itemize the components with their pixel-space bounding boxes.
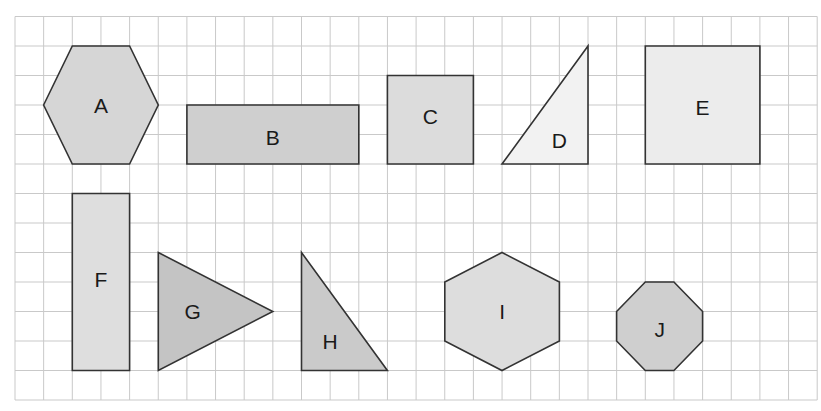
shape-label: E [696,96,710,119]
shape-label: B [266,126,280,149]
shape-c-square: C [387,76,473,165]
shape-j-octagon: J [617,282,703,371]
shape-grid-diagram: ABCDEFGHIJ [0,0,821,411]
shape-label: I [499,300,505,323]
shape-label: A [94,94,108,117]
shape-label: F [95,268,108,291]
shape-label: J [654,318,665,341]
shape-label: G [184,300,200,323]
shapes-layer: ABCDEFGHIJ [44,46,760,371]
shape-e-square: E [645,46,760,164]
shape-i-hexagon: I [445,253,560,371]
shape-label: C [423,105,438,128]
shape-label: D [552,129,567,152]
shape-b-rectangle: B [187,105,359,164]
shape-f-rectangle: F [72,194,129,371]
shape-label: H [323,330,338,353]
shape-a-hexagon: A [44,46,159,164]
